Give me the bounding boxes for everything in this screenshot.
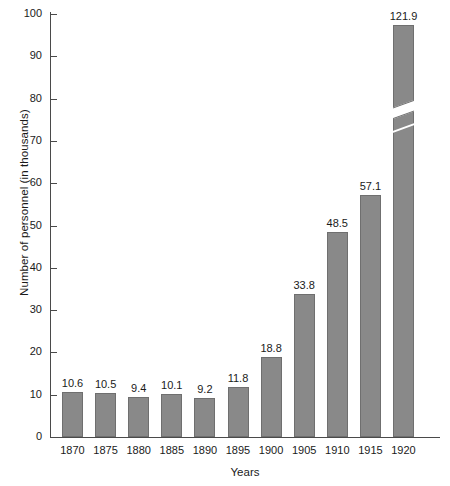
- x-axis-tick-label: 1870: [54, 445, 91, 456]
- bar: [95, 393, 116, 437]
- y-axis-tick-mark: [51, 310, 57, 311]
- y-axis-tick-mark: [51, 141, 57, 142]
- x-axis-tick-label: 1885: [153, 445, 190, 456]
- y-axis-tick-label: 30: [14, 304, 42, 315]
- bar-value-label: 121.9: [384, 11, 423, 22]
- y-axis-tick-label: 90: [14, 50, 42, 61]
- bar-value-label: 57.1: [351, 181, 390, 192]
- bar: [161, 394, 182, 437]
- x-axis-tick-label: 1920: [385, 445, 422, 456]
- break-mask-right: [414, 96, 430, 130]
- bar: [327, 232, 348, 437]
- bar-value-label: 33.8: [285, 280, 324, 291]
- y-axis-tick-mark: [51, 268, 57, 269]
- y-axis-tick-label: 70: [14, 135, 42, 146]
- y-axis-tick-mark: [51, 14, 57, 15]
- y-axis-tick-label: 80: [14, 93, 42, 104]
- bar: [128, 397, 149, 437]
- y-axis-tick-mark: [51, 395, 57, 396]
- y-axis-tick-mark: [51, 352, 57, 353]
- y-axis-tick-mark: [51, 56, 57, 57]
- break-mask-left: [379, 96, 393, 130]
- x-axis-tick-label: 1910: [319, 445, 356, 456]
- y-axis-tick-label: 100: [14, 8, 42, 19]
- y-axis-tick-mark: [51, 99, 57, 100]
- x-axis-tick-label: 1895: [220, 445, 257, 456]
- y-axis-tick-mark: [51, 437, 57, 438]
- y-axis-tick-mark: [51, 183, 57, 184]
- x-axis-title: Years: [50, 466, 440, 478]
- x-axis-tick-label: 1915: [352, 445, 389, 456]
- x-axis-tick-label: 1900: [253, 445, 290, 456]
- bar-value-label: 18.8: [252, 343, 291, 354]
- bar-value-label: 48.5: [318, 218, 357, 229]
- y-axis-tick-mark: [51, 226, 57, 227]
- bar: [228, 387, 249, 437]
- bar: [194, 398, 215, 437]
- bar-value-label: 9.2: [185, 384, 224, 395]
- x-axis-line: [50, 437, 440, 438]
- bar: [62, 392, 83, 437]
- x-axis-tick-label: 1890: [186, 445, 223, 456]
- y-axis-tick-label: 50: [14, 220, 42, 231]
- y-axis-tick-label: 60: [14, 177, 42, 188]
- bar: [294, 294, 315, 437]
- bar: [360, 195, 381, 437]
- y-axis-tick-label: 40: [14, 262, 42, 273]
- bar: [393, 25, 414, 437]
- bar: [261, 357, 282, 437]
- x-axis-tick-label: 1880: [120, 445, 157, 456]
- bar-chart: Number of personnel (in thousands) Years…: [0, 0, 450, 486]
- y-axis-tick-label: 10: [14, 389, 42, 400]
- x-axis-tick-label: 1875: [87, 445, 124, 456]
- y-axis-tick-label: 0: [14, 431, 42, 442]
- bar-value-label: 11.8: [219, 373, 258, 384]
- x-axis-tick-label: 1905: [286, 445, 323, 456]
- y-axis-tick-label: 20: [14, 346, 42, 357]
